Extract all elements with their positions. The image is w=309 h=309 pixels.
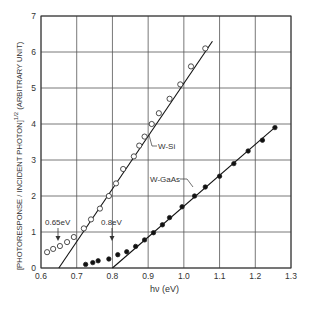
x-tick-label: 1.1 (214, 271, 226, 281)
y-axis-label-main: PHOTORESPONSE / INCIDENT PHOTON (15, 122, 24, 268)
filled-circle-point (180, 205, 184, 209)
x-axis-label: hν (eV) (150, 284, 179, 294)
filled-circle-point (91, 260, 95, 264)
open-circle-point (44, 250, 49, 255)
filled-circle-point (217, 174, 221, 178)
y-tick-label: 5 (31, 83, 36, 93)
filled-circle-point (160, 223, 164, 227)
open-circle-point (178, 82, 183, 87)
x-tick-label: 0.6 (35, 271, 47, 281)
svg-text:[PHOTORESPONSE / INCIDENT PHOT: [PHOTORESPONSE / INCIDENT PHOTON]1/2 (AR… (13, 41, 24, 270)
filled-circle-point (203, 185, 207, 189)
open-circle-point (113, 181, 118, 186)
filled-circle-point (142, 238, 146, 242)
filled-circle-point (107, 257, 111, 261)
filled-circle-point (192, 194, 196, 198)
open-circle-point (149, 121, 154, 126)
filled-circle-point (232, 161, 236, 165)
x-tick-label: 1.2 (249, 271, 261, 281)
filled-circle-point (133, 244, 137, 248)
open-circle-point (64, 239, 69, 244)
open-circle-point (188, 64, 193, 69)
photoresponse-chart: 0.60.70.80.91.01.11.21.3 01234567 0.65eV… (0, 0, 309, 309)
x-tick-label: 0.9 (142, 271, 154, 281)
open-circle-point (203, 46, 208, 51)
filled-circle-point (83, 262, 87, 266)
filled-circle-point (151, 231, 155, 235)
x-axis-ticks: 0.60.70.80.91.01.11.21.3 (35, 271, 297, 281)
y-tick-label: 4 (31, 119, 36, 129)
y-tick-label: 3 (31, 155, 36, 165)
filled-circle-point (167, 215, 171, 219)
x-tick-label: 1.3 (285, 271, 297, 281)
y-tick-label: 0 (31, 263, 36, 273)
label-w-gaas: W-GaAs (150, 175, 180, 184)
filled-circle-point (116, 252, 120, 256)
y-axis-label-unit: (ARBITRARY UNIT) (15, 41, 24, 110)
arrowhead-08ev-icon (110, 236, 115, 241)
annotation-08ev: 0.8eV (101, 218, 123, 227)
y-tick-label: 7 (31, 11, 36, 21)
y-tick-label: 2 (31, 191, 36, 201)
filled-circle-point (125, 250, 129, 254)
y-tick-label: 1 (31, 227, 36, 237)
arrowhead-065ev-icon (56, 236, 61, 241)
annotation-065ev: 0.65eV (45, 218, 71, 227)
y-tick-label: 6 (31, 47, 36, 57)
label-w-si: W-Si (158, 142, 175, 151)
open-circle-point (51, 246, 56, 251)
open-circle-point (131, 154, 136, 159)
open-circle-point (71, 234, 76, 239)
x-tick-label: 0.7 (71, 271, 83, 281)
open-circle-point (97, 206, 102, 211)
open-circle-point (106, 193, 111, 198)
leader-w-si (149, 135, 157, 146)
y-axis-ticks: 01234567 (31, 11, 36, 273)
open-circle-point (121, 166, 126, 171)
open-circle-point (57, 243, 62, 248)
leader-w-gaas (180, 179, 193, 187)
filled-circle-point (246, 149, 250, 153)
open-circle-point (81, 226, 86, 231)
y-axis-label: [PHOTORESPONSE / INCIDENT PHOTON]1/2 (AR… (13, 41, 24, 270)
filled-circle-point (96, 259, 100, 263)
open-circle-point (88, 217, 93, 222)
x-tick-label: 1.0 (178, 271, 190, 281)
open-circle-point (137, 143, 142, 148)
filled-circle-point (260, 138, 264, 142)
open-circle-point (142, 134, 147, 139)
open-circle-point (167, 96, 172, 101)
filled-circle-point (273, 125, 277, 129)
open-circle-point (156, 111, 161, 116)
fit-lines (59, 41, 277, 268)
x-tick-label: 0.8 (107, 271, 119, 281)
